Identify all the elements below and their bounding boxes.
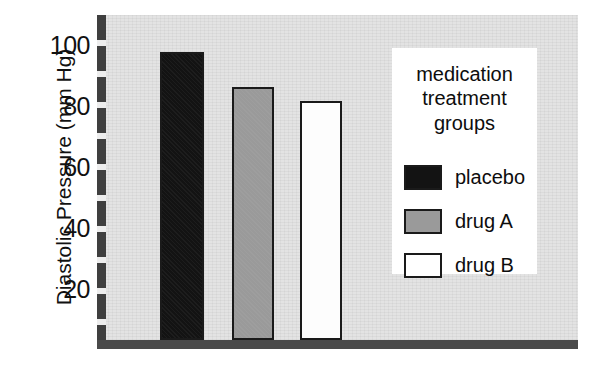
legend-box: medication treatment groups placebo drug… (392, 48, 537, 274)
bar-chart-figure: 100 80 60 40 20 Diastolic Pressure (mm H… (0, 0, 598, 374)
bar-placebo (160, 52, 204, 340)
x-axis-line (97, 340, 578, 349)
legend-title-line-1: medication (398, 62, 531, 86)
y-axis-title: Diastolic Pressure (mm Hg) (52, 27, 76, 327)
legend-item-placebo: placebo (404, 155, 537, 199)
legend-swatch-placebo (404, 165, 442, 190)
legend-title-line-3: groups (398, 111, 531, 135)
legend-item-drug-a: drug A (404, 199, 537, 243)
bar-drug-a (232, 87, 274, 340)
legend-title-line-2: treatment (398, 86, 531, 110)
legend-title: medication treatment groups (392, 62, 537, 135)
legend-label-drug-b: drug B (455, 254, 514, 277)
y-axis-line (97, 15, 106, 341)
legend-swatch-drug-a (404, 209, 442, 234)
legend-swatch-drug-b (404, 253, 442, 278)
legend-label-drug-a: drug A (455, 210, 513, 233)
legend-label-placebo: placebo (455, 166, 525, 189)
bar-drug-b (300, 101, 342, 340)
legend-items: placebo drug A drug B (392, 155, 537, 287)
legend-item-drug-b: drug B (404, 243, 537, 287)
